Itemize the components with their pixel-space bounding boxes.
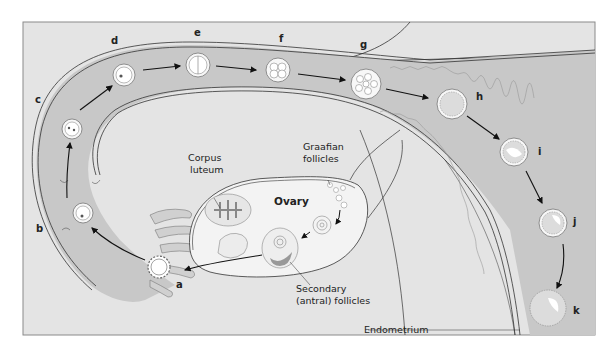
secondary-follicles-label-2: (antral) follicles: [296, 295, 370, 306]
oviduct-diagram: a b c d e f g h i j k Ovary Corpus luteu…: [0, 0, 615, 363]
label-k: k: [573, 305, 580, 316]
corpus-luteum-label-2: luteum: [190, 164, 224, 175]
stage-d-pronuclei: [113, 64, 135, 86]
stage-j-blastocyst: [539, 209, 567, 237]
label-g: g: [360, 39, 367, 50]
corpus-luteum-label-1: Corpus: [188, 152, 221, 163]
endometrium-label: Endometrium: [364, 324, 429, 335]
secondary-follicles-label-1: Secondary: [296, 283, 347, 294]
stage-e-two-cell: [186, 53, 210, 77]
graafian-follicles-label-1: Graafian: [303, 141, 344, 152]
stage-f-four-cell: [266, 58, 290, 82]
label-j: j: [572, 216, 576, 227]
label-a: a: [176, 279, 183, 290]
stage-h-morula: [437, 89, 467, 119]
stage-a-oocyte: [148, 256, 170, 278]
label-c: c: [35, 94, 41, 105]
stage-k-implantation: [530, 290, 566, 326]
stage-i-early-blastocyst: [500, 138, 528, 166]
stage-c-zygote: [62, 119, 82, 139]
label-b: b: [36, 223, 43, 234]
graafian-follicles-label-2: follicles: [303, 153, 339, 164]
label-e: e: [194, 27, 201, 38]
label-i: i: [538, 146, 541, 157]
label-h: h: [476, 91, 483, 102]
stage-g-eight-cell: [351, 69, 381, 99]
label-f: f: [279, 33, 284, 44]
ovary-label: Ovary: [274, 195, 309, 207]
label-d: d: [111, 35, 118, 46]
